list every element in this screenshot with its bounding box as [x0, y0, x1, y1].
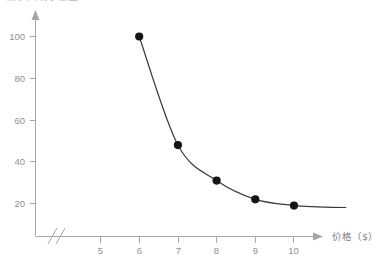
data-point-marker — [290, 201, 298, 209]
x-tick-label-6: 6 — [137, 245, 142, 256]
x-tick-label-7: 7 — [176, 245, 181, 256]
y-axis-arrow-icon — [32, 10, 40, 20]
y-tick-label-80: 80 — [14, 73, 25, 84]
demand-curve-line — [139, 37, 346, 208]
data-point-marker — [174, 141, 182, 149]
y-tick-label-100: 100 — [9, 31, 25, 42]
x-tick-label-9: 9 — [253, 245, 258, 256]
data-point-markers — [135, 32, 298, 209]
y-axis — [32, 10, 40, 236]
data-point-marker — [135, 32, 143, 40]
x-tick-label-8: 8 — [214, 245, 219, 256]
x-axis-arrow-icon — [313, 233, 323, 241]
x-tick-label-10: 10 — [288, 245, 299, 256]
y-tick-label-20: 20 — [14, 198, 25, 209]
y-tick-label-40: 40 — [14, 156, 25, 167]
x-axis-ticks — [101, 237, 294, 244]
y-axis-tick-labels: 100 80 60 40 20 — [9, 31, 25, 209]
x-axis-title: 价格（$） — [332, 231, 378, 242]
x-axis — [36, 233, 324, 241]
y-tick-label-60: 60 — [14, 115, 25, 126]
demand-curve-chart: 100 80 60 40 20 5 6 7 8 9 10 价格（$） — [0, 0, 379, 259]
data-point-marker — [251, 195, 259, 203]
x-tick-label-5: 5 — [98, 245, 103, 256]
y-axis-ticks — [30, 37, 36, 204]
chart-container: 需求曲线示意图 100 80 60 40 — [0, 0, 379, 259]
x-axis-tick-labels: 5 6 7 8 9 10 — [98, 245, 299, 256]
data-point-marker — [213, 176, 221, 184]
